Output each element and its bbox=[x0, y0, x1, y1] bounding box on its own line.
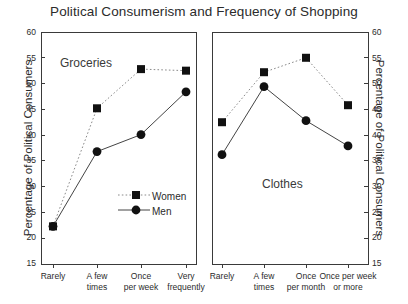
series-line-women bbox=[222, 58, 348, 122]
series-line-men bbox=[53, 92, 186, 227]
legend-marker-circle-men bbox=[132, 206, 141, 215]
legend-marker-square-women bbox=[132, 191, 140, 199]
marker-square-women bbox=[93, 104, 101, 112]
marker-square-women bbox=[182, 67, 190, 75]
series-line-men bbox=[222, 87, 348, 155]
marker-circle-men bbox=[344, 142, 353, 151]
marker-circle-men bbox=[218, 150, 227, 159]
marker-circle-men bbox=[93, 147, 102, 156]
marker-square-women bbox=[260, 68, 268, 76]
marker-circle-men bbox=[137, 130, 146, 139]
chart-canvas bbox=[0, 0, 408, 304]
chart-figure: Political Consumerism and Frequency of S… bbox=[0, 0, 408, 304]
marker-circle-men bbox=[182, 87, 191, 96]
marker-square-women bbox=[218, 118, 226, 126]
series-line-women bbox=[53, 69, 186, 226]
marker-circle-men bbox=[260, 82, 269, 91]
marker-square-women bbox=[344, 101, 352, 109]
marker-circle-men bbox=[302, 116, 311, 125]
marker-square-women bbox=[137, 65, 145, 73]
marker-circle-men bbox=[49, 222, 58, 231]
marker-square-women bbox=[302, 54, 310, 62]
panel-frame-groceries bbox=[41, 32, 196, 264]
